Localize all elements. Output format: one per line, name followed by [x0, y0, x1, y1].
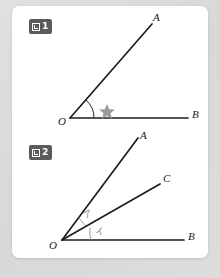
- point-label-o: O: [58, 115, 66, 127]
- figure-card: 1 O A B 2: [12, 6, 208, 258]
- angle-arc-aob: [86, 100, 94, 118]
- ray-oa: [62, 138, 138, 240]
- figure-1-diagram: O A B: [12, 6, 208, 132]
- point-label-b: B: [188, 230, 195, 242]
- angle-label-i: イ: [94, 226, 105, 238]
- point-label-a: A: [152, 11, 160, 23]
- figure-1: 1 O A B: [12, 6, 208, 132]
- point-label-o: O: [49, 239, 57, 251]
- angle-arc-i: [90, 228, 91, 240]
- figure-2: 2 ア イ O A C B: [12, 132, 208, 258]
- point-label-c: C: [163, 172, 171, 184]
- page-root: 1 O A B 2: [0, 0, 220, 278]
- star-angle-mark: [99, 104, 115, 119]
- point-label-b: B: [192, 108, 199, 120]
- ray-oc: [62, 184, 160, 240]
- ray-oa: [70, 24, 152, 118]
- figure-2-diagram: ア イ O A C B: [12, 132, 208, 258]
- point-label-a: A: [139, 132, 147, 141]
- angle-label-a: ア: [81, 208, 94, 221]
